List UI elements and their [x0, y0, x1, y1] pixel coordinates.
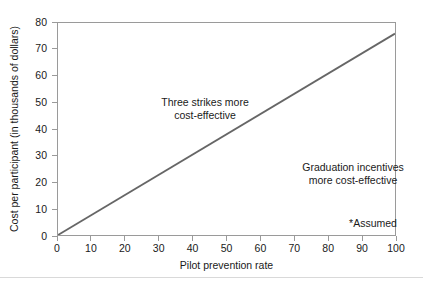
- x-tick-mark: [192, 236, 193, 241]
- y-tick-label: 0: [7, 231, 47, 242]
- plot-svg: [58, 23, 395, 235]
- y-tick-label: 30: [7, 150, 47, 161]
- x-axis-title: Pilot prevention rate: [57, 259, 396, 271]
- annotation-three-strikes: Three strikes more cost-effective: [115, 96, 295, 122]
- y-tick-label: 40: [7, 124, 47, 135]
- footer-divider: [0, 277, 423, 278]
- y-tick-label: 70: [7, 43, 47, 54]
- x-tick-mark: [124, 236, 125, 241]
- x-tick-mark: [362, 236, 363, 241]
- x-tick-mark: [226, 236, 227, 241]
- y-tick-label: 20: [7, 177, 47, 188]
- plot-area: Three strikes more cost-effective Gradua…: [57, 22, 396, 236]
- x-tick-mark: [57, 236, 58, 241]
- x-tick-mark: [328, 236, 329, 241]
- x-tick-mark: [158, 236, 159, 241]
- y-tick-label: 80: [7, 17, 47, 28]
- break-even-line: [58, 34, 395, 235]
- x-tick-mark: [396, 236, 397, 241]
- x-tick-label: 100: [376, 243, 416, 254]
- annotation-line: *Assumed: [303, 217, 423, 230]
- x-tick-mark: [90, 236, 91, 241]
- annotation-line: Three strikes more: [115, 96, 295, 109]
- annotation-graduation-incentives: Graduation incentives more cost-effectiv…: [258, 161, 423, 187]
- x-tick-mark: [260, 236, 261, 241]
- y-tick-label: 50: [7, 97, 47, 108]
- annotation-line: Graduation incentives: [258, 161, 423, 174]
- y-tick-label: 10: [7, 204, 47, 215]
- chart-figure: Cost per participant (in thousands of do…: [0, 0, 423, 283]
- annotation-line: cost-effective: [115, 109, 295, 122]
- annotation-line: more cost-effective: [258, 174, 423, 187]
- annotation-assumed-note: *Assumed: [303, 217, 423, 230]
- y-tick-label: 60: [7, 70, 47, 81]
- x-tick-mark: [294, 236, 295, 241]
